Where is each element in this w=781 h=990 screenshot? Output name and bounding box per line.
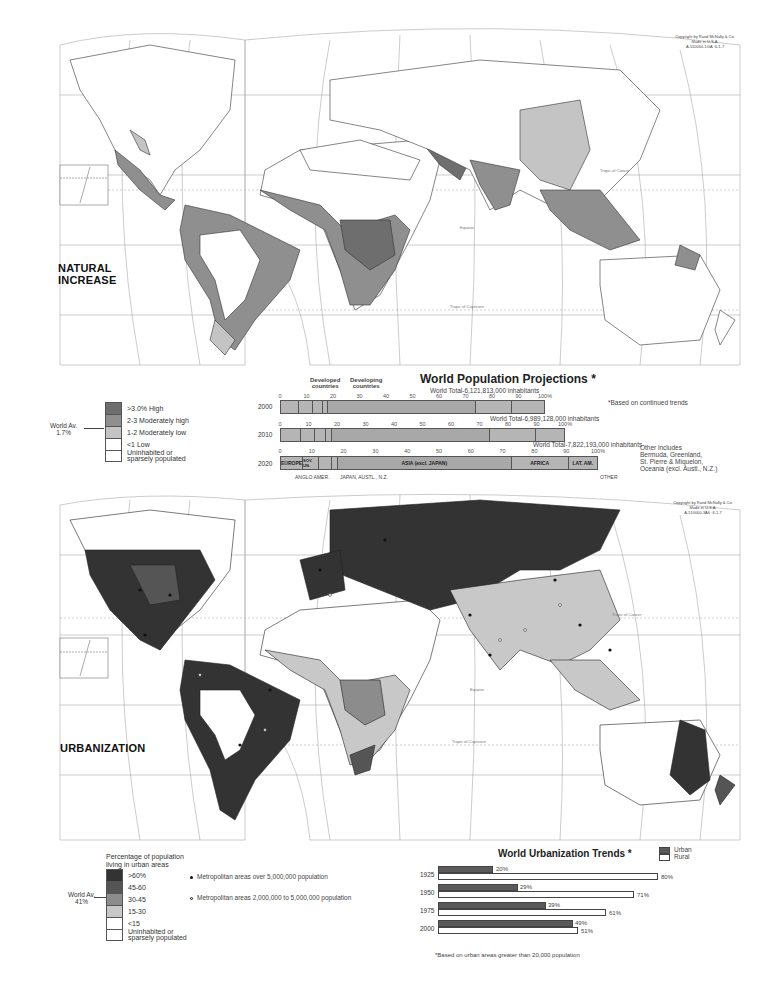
legend-item: Uninhabited or sparsely populated <box>105 450 197 462</box>
urbanization-legend-heading: Percentage of population living in urban… <box>106 853 184 869</box>
heading-line: Percentage of population <box>106 853 184 861</box>
rural-pct-1975: 61% <box>609 910 621 916</box>
legend-item: 2-3 Moderately high <box>105 414 197 426</box>
asterisk: * <box>591 372 596 386</box>
chart-title-text: World Population Projections <box>420 372 588 386</box>
other-label: OTHER <box>600 474 618 480</box>
legend-label: Uninhabited or sparsely populated <box>127 450 197 463</box>
note-line: St. Pierre & Miquelon, <box>640 458 717 465</box>
urbanization-legend: >60% 45-60 30-45 15-30 <15 Uninhabited o… <box>106 869 198 941</box>
projection-bar-2010 <box>280 428 565 442</box>
urban-pct-1925: 20% <box>496 866 508 872</box>
anglo-amer-label: ANGLO AMER. <box>295 474 329 480</box>
segment-sov-un: SOV. UN. <box>303 457 319 469</box>
arrow-icon <box>94 897 106 898</box>
urban-pct-2000: 49% <box>575 920 587 926</box>
copyright-line: A-510000-1GA ·6-1-7 <box>670 44 740 49</box>
urbanization-copyright: Copyright by Rand McNally & Co. Made in … <box>668 500 738 515</box>
note-line: Bermuda, Greenland, <box>640 451 717 458</box>
natural-increase-copyright: Copyright by Rand McNally & Co. Made in … <box>670 34 740 49</box>
title-line-2: INCREASE <box>58 274 116 286</box>
population-projections-title: World Population Projections * <box>420 372 596 386</box>
legend-swatch <box>106 893 123 905</box>
legend-label: 1-2 Moderately low <box>127 429 186 436</box>
axis-ticks-2020: 0102030405060708090100% <box>280 448 598 456</box>
urbanization-world-average: World Av. 41% <box>68 891 95 905</box>
urbanization-trends-title: World Urbanization Trends * <box>498 848 632 859</box>
urban-pct-1975: 39% <box>548 902 560 908</box>
label-line: countries <box>310 383 340 389</box>
world-average-label: World Av. <box>50 422 77 429</box>
legend-item: Uninhabited or sparsely populated <box>106 929 198 941</box>
projection-bar-2020: EUROPE SOV. UN. ASIA (excl. JAPAN) AFRIC… <box>280 456 598 470</box>
equator-label: Equator <box>460 225 475 230</box>
other-includes-note: Other includes Bermuda, Greenland, St. P… <box>640 444 717 472</box>
legend-item: 45-60 <box>106 881 198 893</box>
world-average-value: 41% <box>68 898 95 905</box>
segment-lat-am: LAT. AM. <box>569 457 597 469</box>
metro-medium-label: Metropolitan areas 2,000,000 to 5,000,00… <box>197 894 351 901</box>
label-line: countries <box>350 383 382 389</box>
rural-bar-1975 <box>438 909 606 916</box>
segment-africa: AFRICA <box>512 457 569 469</box>
note-line: Oceania (excl. Austl., N.Z.) <box>640 465 717 472</box>
legend-swatch <box>105 414 122 426</box>
world-average-label: World Av. <box>68 891 95 898</box>
arrow-icon <box>84 428 104 429</box>
legend-swatch <box>105 450 122 462</box>
heading-line: living in urban areas <box>106 861 184 869</box>
urban-bar-1925 <box>438 866 493 873</box>
metro-medium-legend: Metropolitan areas 2,000,000 to 5,000,00… <box>190 894 351 901</box>
legend-label: <15 <box>128 920 140 927</box>
hollow-dot-icon <box>190 897 193 900</box>
rural-legend-swatch <box>659 854 670 861</box>
legend-swatch <box>105 402 122 414</box>
year-label-1950: 1950 <box>420 889 434 896</box>
legend-label: <1 Low <box>127 441 150 448</box>
legend-label: 45-60 <box>128 884 146 891</box>
legend-label: 30-45 <box>128 896 146 903</box>
title-line-1: NATURAL <box>58 262 116 274</box>
rural-bar-1925 <box>438 873 658 880</box>
note-line: Other includes <box>640 444 717 451</box>
year-label-2000-urban: 2000 <box>420 925 434 932</box>
rural-legend-label: Rural <box>674 853 690 860</box>
natural-increase-map-graphic: Tropic of Cancer Equator Tropic of Capri… <box>0 20 781 370</box>
projection-total-2020: World Total-7,822,193,000 inhabitants <box>533 441 642 448</box>
year-label-2020: 2020 <box>258 460 272 467</box>
japan-austl-nz-label: JAPAN, AUSTL., N.Z. <box>340 474 388 480</box>
segment-europe: EUROPE <box>281 457 303 469</box>
year-label-1925: 1925 <box>420 871 434 878</box>
urban-bar-1950 <box>438 884 518 891</box>
legend-item: 30-45 <box>106 893 198 905</box>
legend-swatch <box>106 917 123 929</box>
rural-bar-2000 <box>438 927 578 934</box>
tropic-of-cancer-label: Tropic of Cancer <box>600 168 630 173</box>
natural-increase-legend: >3.0% High 2-3 Moderately high 1-2 Moder… <box>105 402 197 462</box>
natural-increase-title: NATURAL INCREASE <box>58 262 116 286</box>
tropic-of-cancer-label: Tropic of Cancer <box>612 612 642 617</box>
urban-legend-label: Urban <box>674 846 692 853</box>
legend-swatch <box>106 881 123 893</box>
legend-swatch <box>105 426 122 438</box>
legend-item: 15-30 <box>106 905 198 917</box>
natural-increase-map: Tropic of Cancer Equator Tropic of Capri… <box>0 20 781 370</box>
natural-increase-world-average: World Av. 1.7% <box>50 422 77 436</box>
legend-label: >60% <box>128 872 146 879</box>
legend-item: >60% <box>106 869 198 881</box>
tropic-of-capricorn-label: Tropic of Capricorn <box>452 739 486 744</box>
rural-pct-1925: 80% <box>661 874 673 880</box>
segment-asia: ASIA (excl. JAPAN) <box>338 457 512 469</box>
legend-swatch <box>106 905 123 917</box>
projection-footnote: *Based on continued trends <box>608 399 688 406</box>
year-label-2000: 2000 <box>258 403 272 410</box>
legend-swatch <box>106 869 123 881</box>
copyright-line: A-510000-3A6 ·6-1-7 <box>668 510 738 515</box>
legend-swatch <box>106 929 123 941</box>
urban-bar-2000 <box>438 920 573 927</box>
filled-dot-icon <box>190 876 193 879</box>
urban-legend-swatch <box>659 847 670 854</box>
legend-label: >3.0% High <box>127 405 163 412</box>
urbanization-footnote: *Based on urban areas greater than 20,00… <box>435 952 580 958</box>
legend-label: 2-3 Moderately high <box>127 417 189 424</box>
